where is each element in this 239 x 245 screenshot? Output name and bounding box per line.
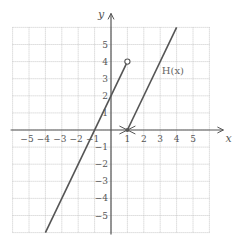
y-tick-label: −4 bbox=[95, 193, 109, 203]
x-tick-label: 5 bbox=[190, 134, 196, 144]
y-tick-label: 3 bbox=[102, 74, 108, 84]
x-tick-label: 3 bbox=[157, 134, 163, 144]
y-tick-label: 5 bbox=[102, 40, 108, 50]
open-circle-icon bbox=[125, 59, 130, 64]
x-tick-label: 4 bbox=[174, 134, 180, 144]
x-tick-label: 1 bbox=[125, 134, 131, 144]
y-tick-label: −3 bbox=[95, 176, 109, 186]
piecewise-graph: −5−4−3−2−112345−5−4−3−2−112345 x y H(x) bbox=[0, 0, 239, 245]
y-tick-label: −2 bbox=[95, 159, 108, 169]
x-tick-label: −2 bbox=[70, 134, 83, 144]
axes bbox=[11, 13, 224, 234]
x-tick-label: −5 bbox=[20, 134, 34, 144]
x-tick-label: −3 bbox=[53, 134, 67, 144]
y-tick-label: 4 bbox=[102, 57, 108, 67]
function-label: H(x) bbox=[162, 65, 184, 76]
y-tick-label: −5 bbox=[95, 211, 109, 221]
x-tick-label: −4 bbox=[37, 134, 51, 144]
y-tick-label: −1 bbox=[95, 142, 108, 152]
y-axis-label: y bbox=[97, 8, 105, 21]
y-tick-label: 2 bbox=[102, 91, 108, 101]
x-tick-label: 2 bbox=[141, 134, 147, 144]
closed-point-icon bbox=[125, 128, 129, 132]
x-axis-label: x bbox=[225, 132, 232, 145]
